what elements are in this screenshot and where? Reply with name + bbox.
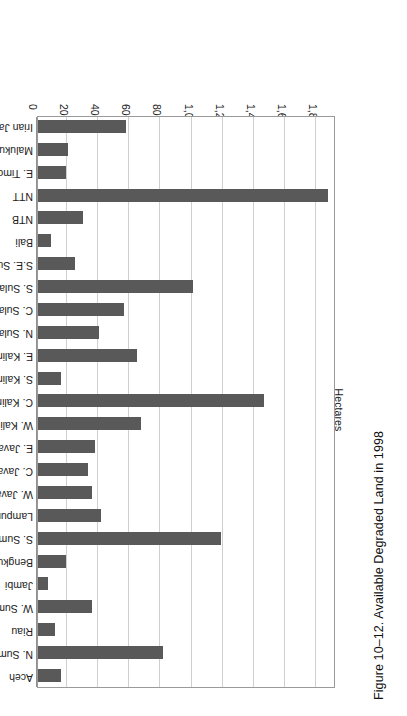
bar[interactable] xyxy=(38,600,92,613)
bar[interactable] xyxy=(38,623,55,636)
category-label: C. Kalimantan xyxy=(0,397,33,408)
category-label: W. Java xyxy=(0,489,33,500)
bar[interactable] xyxy=(38,577,48,590)
category-label: N. Sumatra xyxy=(0,649,33,660)
bar[interactable] xyxy=(38,166,66,179)
bar-row[interactable] xyxy=(38,412,334,435)
category-label: C. Java xyxy=(0,466,33,477)
category-label: S. Sulawesi xyxy=(0,283,33,294)
bar-row[interactable] xyxy=(38,161,334,184)
bar-row[interactable] xyxy=(38,321,334,344)
bar-row[interactable] xyxy=(38,138,334,161)
bar[interactable] xyxy=(38,440,95,453)
category-label: S. Kalimantan xyxy=(0,374,33,385)
bar[interactable] xyxy=(38,486,92,499)
plot-area xyxy=(37,116,335,688)
bar-row[interactable] xyxy=(38,596,334,619)
bar-row[interactable] xyxy=(38,618,334,641)
bar[interactable] xyxy=(38,211,83,224)
category-label: Aceh xyxy=(9,672,33,683)
bar[interactable] xyxy=(38,349,137,362)
category-label: W. Kalimantan xyxy=(0,420,33,431)
chart: Hectares 0200,000400,000600,000800,0001,… xyxy=(0,0,355,716)
bar-row[interactable] xyxy=(38,458,334,481)
bar-row[interactable] xyxy=(38,298,334,321)
category-label: C. Sulawesi xyxy=(0,305,33,316)
category-label: S.E. Sulawesi xyxy=(0,260,33,271)
bar[interactable] xyxy=(38,234,51,247)
bar-row[interactable] xyxy=(38,573,334,596)
bar-row[interactable] xyxy=(38,435,334,458)
category-label: S. Sumatra xyxy=(0,534,33,545)
category-label: Bali xyxy=(15,237,33,248)
category-label: Lampung xyxy=(0,511,33,522)
bar-row[interactable] xyxy=(38,641,334,664)
bar[interactable] xyxy=(38,646,163,659)
category-label: E. Kalimantan xyxy=(0,351,33,362)
bar-row[interactable] xyxy=(38,664,334,687)
bar[interactable] xyxy=(38,394,264,407)
bar-row[interactable] xyxy=(38,344,334,367)
bar[interactable] xyxy=(38,669,61,682)
category-label: Irian Jaya xyxy=(0,122,33,133)
bar-row[interactable] xyxy=(38,275,334,298)
chart-rotated-container: Hectares 0200,000400,000600,000800,0001,… xyxy=(0,0,355,716)
bar[interactable] xyxy=(38,463,88,476)
bar[interactable] xyxy=(38,509,101,522)
figure-page: Hectares 0200,000400,000600,000800,0001,… xyxy=(0,0,407,716)
bar[interactable] xyxy=(38,372,61,385)
category-label: N. Sulawesi xyxy=(0,328,33,339)
bar[interactable] xyxy=(38,532,221,545)
bar-row[interactable] xyxy=(38,504,334,527)
category-label: NTB xyxy=(12,214,33,225)
bar[interactable] xyxy=(38,120,126,133)
bar-row[interactable] xyxy=(38,390,334,413)
bar-row[interactable] xyxy=(38,481,334,504)
category-label: E. Timor xyxy=(0,168,33,179)
bar-row[interactable] xyxy=(38,527,334,550)
bar-row[interactable] xyxy=(38,229,334,252)
bar[interactable] xyxy=(38,555,66,568)
bar[interactable] xyxy=(38,189,328,202)
bar[interactable] xyxy=(38,143,68,156)
bar[interactable] xyxy=(38,280,193,293)
bar-row[interactable] xyxy=(38,184,334,207)
bar[interactable] xyxy=(38,257,75,270)
zero-axis-line xyxy=(36,117,37,687)
bar-row[interactable] xyxy=(38,252,334,275)
bar-row[interactable] xyxy=(38,550,334,573)
value-axis-tick-label: 0 xyxy=(27,104,39,110)
category-label: W. Sumatra xyxy=(0,603,33,614)
figure-caption: Figure 10–12. Available Degraded Land in… xyxy=(372,431,386,700)
category-label: Jambi xyxy=(5,580,33,591)
category-label: NTT xyxy=(13,191,33,202)
bar[interactable] xyxy=(38,326,99,339)
bar-row[interactable] xyxy=(38,115,334,138)
bar[interactable] xyxy=(38,303,124,316)
bar-row[interactable] xyxy=(38,207,334,230)
bar-row[interactable] xyxy=(38,367,334,390)
bar[interactable] xyxy=(38,417,141,430)
category-label: E. Java xyxy=(0,443,33,454)
category-label: Bengkulu xyxy=(0,557,33,568)
category-label: Maluku xyxy=(0,145,33,156)
category-label: Riau xyxy=(11,626,33,637)
